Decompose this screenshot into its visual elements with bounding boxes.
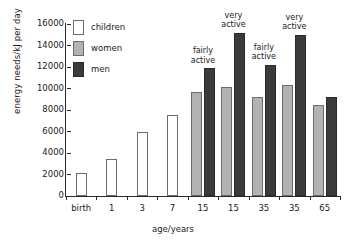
y-tick-label: 14000 — [37, 40, 64, 50]
annotation-line: active — [210, 20, 256, 30]
bar-men-35-7 — [295, 35, 306, 196]
y-tick-label: 6000 — [42, 126, 64, 136]
annotation-very-active: veryactive — [271, 13, 317, 32]
x-tick-label-2: 3 — [127, 203, 157, 213]
bar-children-1-1 — [106, 159, 117, 196]
annotation-line: fairly — [241, 43, 287, 53]
x-tick-mark — [340, 196, 341, 200]
annotation-fairly-active: fairlyactive — [241, 43, 287, 62]
x-axis-title: age/years — [0, 224, 346, 234]
y-tick-label: 2000 — [42, 169, 64, 179]
annotation-line: very — [210, 11, 256, 21]
bar-men-65-8 — [326, 97, 337, 196]
y-tick-mark — [67, 110, 71, 111]
y-tick-label: 8000 — [42, 104, 64, 114]
x-tick-label-8: 65 — [310, 203, 340, 213]
y-tick-label: 10000 — [37, 83, 64, 93]
legend-swatch-women — [73, 41, 84, 56]
y-tick-mark — [67, 24, 71, 25]
x-tick-mark — [249, 196, 250, 200]
y-axis-title: energy needs/kJ per day — [12, 0, 22, 126]
x-tick-mark — [157, 196, 158, 200]
bar-women-15-4 — [191, 92, 202, 196]
y-tick-mark — [67, 131, 71, 132]
x-tick-label-6: 35 — [249, 203, 279, 213]
legend-swatch-men — [73, 62, 84, 77]
y-tick-mark — [67, 153, 71, 154]
bar-children-7-3 — [167, 115, 178, 196]
x-tick-label-3: 7 — [157, 203, 187, 213]
x-tick-label-0: birth — [66, 203, 96, 213]
annotation-very-active: veryactive — [210, 11, 256, 30]
annotation-line: active — [271, 22, 317, 32]
legend-swatch-children — [73, 20, 84, 35]
y-tick-label: 0 — [59, 190, 64, 200]
x-axis-line — [65, 196, 341, 197]
bar-men-35-6 — [265, 65, 276, 196]
bar-men-15-4 — [204, 68, 215, 196]
bar-women-15-5 — [221, 87, 232, 196]
annotation-fairly-active: fairlyactive — [180, 46, 226, 65]
bar-children-birth-0 — [76, 173, 87, 196]
x-tick-label-1: 1 — [96, 203, 126, 213]
y-tick-label: 12000 — [37, 61, 64, 71]
energy-needs-bar-chart: energy needs/kJ per day age/years 020004… — [0, 0, 346, 245]
y-tick-mark — [67, 174, 71, 175]
y-tick-mark — [67, 196, 71, 197]
x-tick-mark — [96, 196, 97, 200]
bar-women-65-8 — [313, 105, 324, 196]
y-tick-mark — [67, 88, 71, 89]
x-tick-mark — [188, 196, 189, 200]
bar-children-3-2 — [137, 132, 148, 197]
annotation-line: active — [180, 56, 226, 66]
x-tick-label-5: 15 — [218, 203, 248, 213]
annotation-line: very — [271, 13, 317, 23]
legend-label-children: children — [91, 22, 125, 32]
x-tick-mark — [279, 196, 280, 200]
annotation-line: fairly — [180, 46, 226, 56]
x-tick-mark — [127, 196, 128, 200]
bar-women-35-7 — [282, 85, 293, 196]
y-tick-mark — [67, 67, 71, 68]
x-tick-label-4: 15 — [188, 203, 218, 213]
bar-women-35-6 — [252, 97, 263, 196]
x-tick-mark — [218, 196, 219, 200]
y-tick-label: 4000 — [42, 147, 64, 157]
x-tick-mark — [310, 196, 311, 200]
y-tick-mark — [67, 45, 71, 46]
x-tick-label-7: 35 — [279, 203, 309, 213]
legend-label-women: women — [91, 43, 122, 53]
annotation-line: active — [241, 52, 287, 62]
legend-label-men: men — [91, 64, 110, 74]
y-tick-label: 16000 — [37, 18, 64, 28]
x-tick-mark — [66, 196, 67, 200]
